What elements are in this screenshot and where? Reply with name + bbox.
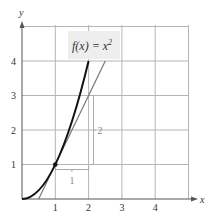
y-tick-labels: 1 2 3 4 <box>11 56 16 171</box>
function-label: f(x) = x2 <box>72 38 112 53</box>
y-axis-arrow-icon <box>20 21 25 28</box>
run-bracket <box>55 166 88 172</box>
svg-text:1: 1 <box>53 202 58 213</box>
run-label: 1 <box>69 175 74 186</box>
x-axis-arrow-icon <box>191 197 198 202</box>
tangency-point <box>53 162 58 167</box>
svg-text:2: 2 <box>86 202 91 213</box>
chart: 1 2 3 4 1 2 3 4 x y f(x) = x2 1 2 <box>0 0 214 220</box>
svg-text:4: 4 <box>153 202 158 213</box>
svg-text:1: 1 <box>11 159 16 170</box>
y-axis-label: y <box>18 7 24 18</box>
svg-text:2: 2 <box>11 125 16 136</box>
rise-label: 2 <box>98 125 103 136</box>
svg-text:3: 3 <box>119 202 124 213</box>
svg-text:4: 4 <box>11 56 16 67</box>
x-tick-labels: 1 2 3 4 <box>53 202 158 213</box>
svg-text:3: 3 <box>11 90 16 101</box>
x-axis-label: x <box>199 194 205 205</box>
